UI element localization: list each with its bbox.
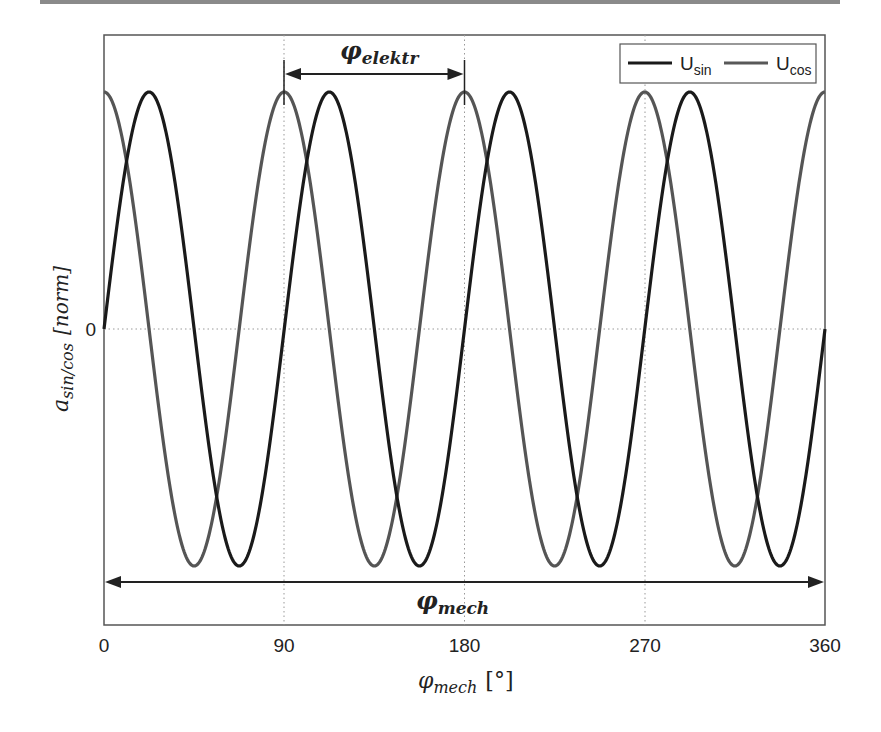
xtick-label: 270 bbox=[629, 635, 661, 656]
chart-svg: φelektr φmech Usin Ucos 0 90 180 270 360… bbox=[0, 0, 881, 732]
legend: Usin Ucos bbox=[620, 44, 816, 83]
arrow-left-icon bbox=[105, 576, 121, 588]
arrow-left-icon bbox=[285, 68, 301, 80]
xtick-label: 90 bbox=[273, 635, 294, 656]
xtick-label: 0 bbox=[99, 635, 110, 656]
xtick-label: 180 bbox=[449, 635, 481, 656]
ytick-label: 0 bbox=[85, 319, 96, 340]
x-axis-label: φmech[°] bbox=[418, 668, 513, 697]
arrow-right-icon bbox=[808, 576, 824, 588]
phi-elektr-annotation: φelektr bbox=[284, 36, 465, 105]
xtick-label: 360 bbox=[809, 635, 841, 656]
phi-mech-label: φmech bbox=[416, 586, 489, 618]
x-axis-ticks: 0 90 180 270 360 bbox=[99, 635, 841, 656]
phi-mech-annotation: φmech bbox=[105, 576, 824, 618]
phi-elektr-label: φelektr bbox=[340, 36, 419, 68]
arrow-right-icon bbox=[448, 68, 464, 80]
y-axis-label: asin/cos[norm] bbox=[48, 266, 77, 412]
